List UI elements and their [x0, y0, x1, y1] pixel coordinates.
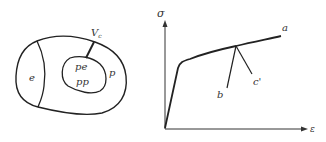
loading-curve	[165, 36, 281, 128]
unloading-branch-c	[236, 46, 252, 74]
region-label-pe: pe	[75, 61, 87, 72]
volume-label: Vc	[91, 27, 102, 39]
volume-pointer-line	[86, 42, 94, 58]
body-domain-figure: e p pe pp Vc	[16, 27, 126, 114]
stress-strain-figure: σ ε a b c'	[157, 7, 315, 134]
y-axis-label: σ	[157, 7, 165, 20]
volume-label-sub: c	[98, 32, 102, 39]
curve-label-a: a	[282, 22, 288, 33]
y-axis-arrow-icon	[163, 20, 168, 27]
x-axis-label: ε	[310, 124, 315, 134]
diagram-canvas: e p pe pp Vc σ ε a b c'	[0, 0, 326, 142]
x-axis-arrow-icon	[301, 127, 308, 132]
unloading-branch-b	[227, 46, 236, 88]
region-label-e: e	[29, 72, 35, 83]
elastic-plastic-interface	[37, 41, 45, 107]
branch-label-b: b	[217, 89, 223, 100]
region-label-pp: pp	[76, 76, 89, 87]
region-label-p: p	[109, 67, 116, 78]
branch-label-c: c'	[253, 76, 261, 87]
